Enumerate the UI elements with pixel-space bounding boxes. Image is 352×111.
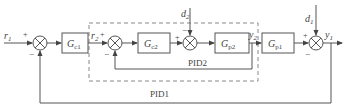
summing-junction-4 [309, 36, 323, 50]
summing-junction-3 [183, 36, 197, 50]
label-d1: d1 [305, 13, 314, 26]
sign-plus-2: + [100, 30, 105, 39]
sign-minus-d2: − [182, 25, 187, 35]
sign-minus-2: − [104, 49, 109, 59]
sign-minus-1: − [29, 49, 34, 59]
label-y1: y1 [324, 29, 333, 42]
sign-plus-1: + [23, 30, 28, 39]
sign-plus-4: + [303, 31, 308, 40]
sign-minus-4: − [305, 49, 310, 59]
sign-plus-3: + [175, 33, 180, 42]
block-diagram: r1 + − Gc1 r2 + − Gc2 d2 − + Gp2 y2 Gp1 … [0, 0, 352, 111]
label-r2: r2 [91, 30, 99, 43]
summing-junction-1 [33, 36, 47, 50]
label-r1: r1 [4, 30, 11, 43]
label-pid2: PID2 [188, 58, 207, 68]
label-pid1: PID1 [150, 89, 169, 99]
summing-junction-2 [108, 36, 122, 50]
label-d2: d2 [181, 8, 190, 21]
